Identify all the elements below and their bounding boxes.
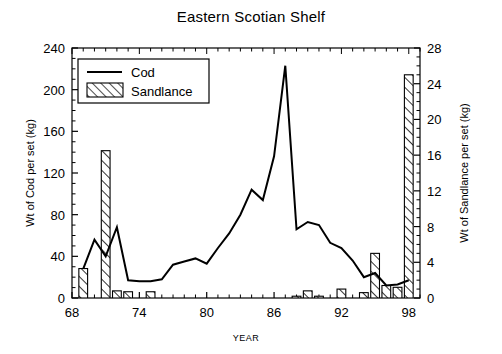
y-axis-title: Wt of Cod per set (kg) xyxy=(24,119,36,227)
x-tick-label: 74 xyxy=(132,305,146,320)
y2-tick-label: 16 xyxy=(427,148,441,163)
y2-tick-label: 20 xyxy=(427,112,441,127)
y2-tick-label: 4 xyxy=(427,255,434,270)
sandlance-bar xyxy=(382,286,391,299)
sandlance-bar xyxy=(113,291,122,298)
chart-legend: Cod Sandlance xyxy=(78,59,209,103)
y-tick-label: 160 xyxy=(43,124,65,139)
chart-plot-area: 04080120160200240 0481216202428 68748086… xyxy=(0,0,502,354)
y-tick-label: 120 xyxy=(43,166,65,181)
y2-tick-label: 12 xyxy=(427,184,441,199)
y-tick-label: 0 xyxy=(58,291,65,306)
y2-tick-label: 24 xyxy=(427,77,441,92)
sandlance-bar xyxy=(292,296,301,298)
sandlance-bar xyxy=(124,292,133,298)
sandlance-bar xyxy=(337,289,346,298)
y2-axis-title: Wt of Sandlance per set (kg) xyxy=(458,103,470,242)
legend-label-cod: Cod xyxy=(131,65,155,80)
y2-tick-label: 28 xyxy=(427,41,441,56)
legend-bar-swatch-sandlance xyxy=(87,83,123,97)
x-tick-label: 98 xyxy=(402,305,416,320)
sandlance-bar xyxy=(393,287,402,298)
legend-label-sandlance: Sandlance xyxy=(131,84,192,99)
x-tick-label: 86 xyxy=(267,305,281,320)
sandlance-bar xyxy=(101,151,110,298)
y2-tick-label: 0 xyxy=(427,291,434,306)
y-tick-label: 80 xyxy=(51,208,65,223)
y-tick-label: 240 xyxy=(43,41,65,56)
sandlance-bar xyxy=(359,293,368,298)
x-tick-label: 68 xyxy=(65,305,79,320)
x-axis-title: YEAR xyxy=(233,333,260,343)
y2-tick-label: 8 xyxy=(427,220,434,235)
sandlance-bar xyxy=(146,292,155,298)
y-tick-label: 200 xyxy=(43,83,65,98)
sandlance-bar xyxy=(303,291,312,298)
sandlance-bar xyxy=(79,269,88,298)
sandlance-bar xyxy=(404,75,413,298)
sandlance-bar xyxy=(315,296,324,298)
x-tick-label: 92 xyxy=(334,305,348,320)
chart-container: Eastern Scotian Shelf 04080120160200240 … xyxy=(0,0,502,354)
y-tick-label: 40 xyxy=(51,249,65,264)
x-tick-label: 80 xyxy=(199,305,213,320)
